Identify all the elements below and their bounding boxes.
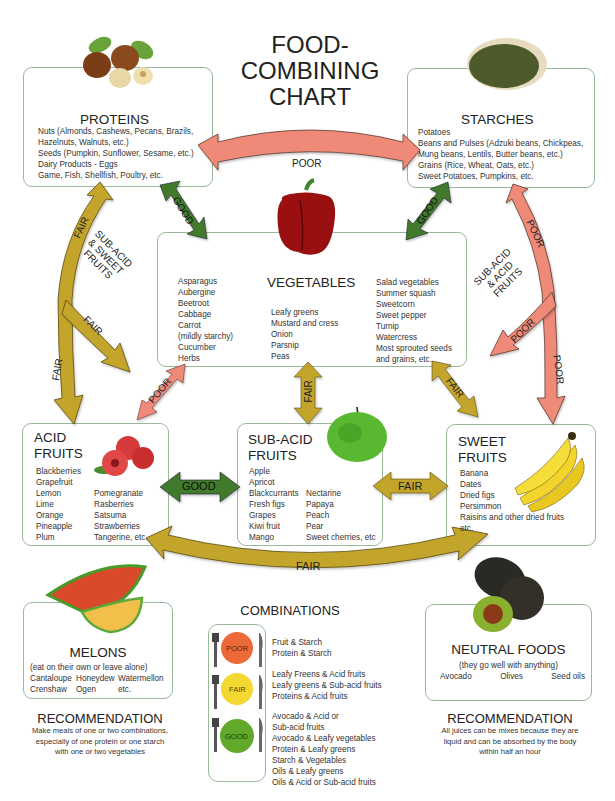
list-item: Sweet Potatoes, Pumpkins, etc. xyxy=(418,171,583,182)
list-item: Strawberries xyxy=(94,521,148,532)
list-item: Dates xyxy=(460,479,564,490)
list-item: Pear xyxy=(306,521,376,532)
text-line: with one or two vegetables xyxy=(5,747,195,758)
text-line: especially of one protein or one starch xyxy=(5,737,195,748)
label-acid-subacid: GOOD xyxy=(182,480,216,492)
list-item: Sweet pepper xyxy=(376,310,452,321)
text-line: All juices can be mixes because they are xyxy=(415,726,605,737)
list-item: Mung beans, Lentils, Butter beans, etc.) xyxy=(418,149,583,160)
label-subacid-sweet: FAIR xyxy=(398,480,422,492)
starches-heading: STARCHES xyxy=(461,112,534,127)
list-item: Dairy Products - Eggs xyxy=(38,159,194,170)
melon-slices-icon xyxy=(48,566,145,632)
list-item: Orange xyxy=(36,510,81,521)
avocado-icon xyxy=(469,550,544,632)
recommendation-right-heading: RECOMMENDATION xyxy=(420,711,600,726)
text-line: within half an hour xyxy=(415,747,605,758)
list-item: Mustard and cress xyxy=(271,318,338,329)
list-item: Oils & Acid or Sub-acid fruits xyxy=(272,777,376,788)
list-item: Pineapple xyxy=(36,521,81,532)
combinations-poor-list: Fruit & Starch Protein & Starch xyxy=(272,637,332,659)
list-item: Crenshaw xyxy=(30,684,76,695)
list-item: Asparagus xyxy=(178,276,233,287)
list-item: Grapes xyxy=(249,510,299,521)
starches-list: Potatoes Beans and Pulses (Adzuki beans,… xyxy=(418,127,583,182)
list-item: Watercress xyxy=(376,332,452,343)
label-acid-sweet: FAIR xyxy=(296,560,320,572)
list-item: Nuts (Almonds, Cashews, Pecans, Brazils, xyxy=(38,126,194,137)
list-item: Fresh figs xyxy=(249,499,299,510)
list-item: Banana xyxy=(460,468,564,479)
list-item: Kiwi fruit xyxy=(249,521,299,532)
list-item: Leafy Freens & Acid fruits xyxy=(272,669,382,680)
list-item: (mildly starchy) xyxy=(178,331,233,342)
text-line: Make meals of one or two combinations, xyxy=(5,726,195,737)
list-item: Most sprouted seeds xyxy=(376,343,452,354)
list-item: Cucumber xyxy=(178,342,233,353)
heading-line: SUB-ACID xyxy=(248,432,313,448)
list-item: Aubergine xyxy=(178,287,233,298)
list-item: Seeds (Pumpkin, Sunflower, Sesame, etc.) xyxy=(38,148,194,159)
list-item: Seed oils xyxy=(551,671,585,682)
knife-icon xyxy=(259,675,263,709)
list-item: Starch & Vegetables xyxy=(272,755,376,766)
list-item: Ogen xyxy=(76,684,118,695)
neutral-foods-heading: NEUTRAL FOODS xyxy=(425,642,592,657)
vegetables-col2: Leafy greens Mustard and cress Onion Par… xyxy=(271,307,338,362)
list-item: Grains (Rice, Wheat, Oats, etc.) xyxy=(418,160,583,171)
bread-icon xyxy=(467,38,547,90)
list-item: Honeydew xyxy=(76,673,118,684)
label-vegetables-subacid: FAIR xyxy=(303,380,314,402)
poor-rating-label: POOR xyxy=(226,644,248,653)
knife-icon xyxy=(259,718,263,752)
heading-line: ACID xyxy=(34,430,83,446)
list-item: Sweet cherries, etc xyxy=(306,532,376,543)
list-item: Leafy greens xyxy=(271,307,338,318)
melons-row-1: CantaloupeHoneydewWatermellon xyxy=(30,673,164,684)
list-item: Oils & Leafy greens xyxy=(272,766,376,777)
sweet-fruits-list: Banana Dates Dried figs Persimmon Raisin… xyxy=(460,468,564,534)
list-item: Peach xyxy=(306,510,376,521)
list-item: Turnip xyxy=(376,321,452,332)
list-item: and grains, etc. xyxy=(376,354,452,365)
vegetables-col1: Asparagus Aubergine Beetroot Cabbage Car… xyxy=(178,276,233,364)
list-item: Avocado xyxy=(440,671,472,682)
list-item: Mango xyxy=(249,532,299,543)
list-item: Parsnip xyxy=(271,340,338,351)
sweet-fruits-heading: SWEET FRUITS xyxy=(458,434,507,466)
list-item: Apple xyxy=(249,466,299,477)
label-proteins-starches: POOR xyxy=(292,158,321,169)
list-item: Herbs xyxy=(178,353,233,364)
subacid-fruits-heading: SUB-ACID FRUITS xyxy=(248,432,313,464)
recommendation-left-text: Make meals of one or two combinations, e… xyxy=(5,726,195,758)
neutral-foods-items: Avocado Olives Seed oils xyxy=(440,671,585,682)
list-item: Protein & Starch xyxy=(272,648,332,659)
raspberries-icon xyxy=(94,436,154,476)
list-item: Sweetcorn xyxy=(376,299,452,310)
knife-icon xyxy=(259,633,263,667)
list-item: Summer squash xyxy=(376,288,452,299)
green-apple-icon xyxy=(327,407,387,462)
list-item: Onion xyxy=(271,329,338,340)
combinations-heading: COMBINATIONS xyxy=(220,603,360,618)
proteins-heading: PROTEINS xyxy=(80,112,149,127)
list-item: Papaya xyxy=(306,499,376,510)
subacid-fruits-col1: Apple Apricot Blackcurrants Fresh figs G… xyxy=(249,466,299,543)
heading-line: FRUITS xyxy=(34,446,83,462)
list-item: Nectarine xyxy=(306,488,376,499)
list-item: Pomegranate xyxy=(94,488,148,499)
heading-line: FRUITS xyxy=(248,448,313,464)
list-item: Blackberries xyxy=(36,466,81,477)
melons-heading: MELONS xyxy=(23,645,173,660)
list-item: Fruit & Starch xyxy=(272,637,332,648)
hazelnuts-icon xyxy=(83,34,156,88)
list-item: Plum xyxy=(36,532,81,543)
heading-line: FRUITS xyxy=(458,450,507,466)
recommendation-right-text: All juices can be mixes because they are… xyxy=(415,726,605,758)
heading-line: SWEET xyxy=(458,434,507,450)
list-item: Salad vegetables xyxy=(376,277,452,288)
list-item: Leafy greens & Sub-acid fruits xyxy=(272,680,382,691)
list-item: Dried figs xyxy=(460,490,564,501)
list-item: Cabbage xyxy=(178,309,233,320)
list-item: Satsuma xyxy=(94,510,148,521)
